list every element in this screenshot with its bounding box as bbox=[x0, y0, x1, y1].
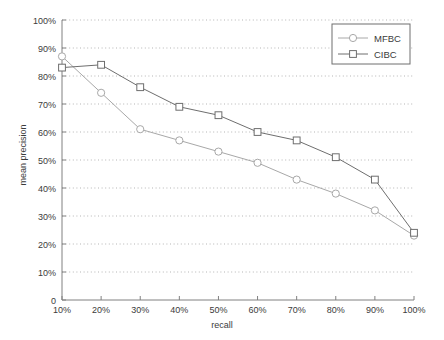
data-point-cibc-90 bbox=[371, 176, 378, 183]
y-tick-label-30: 30% bbox=[38, 212, 56, 222]
y-tick-label-80: 80% bbox=[38, 72, 56, 82]
legend-box bbox=[332, 24, 410, 64]
legend-marker-mfbc bbox=[349, 34, 356, 41]
y-tick-label-10: 10% bbox=[38, 268, 56, 278]
x-tick-label-90: 90% bbox=[366, 305, 384, 315]
series-line-cibc bbox=[62, 65, 414, 233]
data-point-cibc-40 bbox=[176, 103, 183, 110]
y-tick-label-0: 0 bbox=[51, 296, 56, 306]
x-tick-label-20: 20% bbox=[92, 305, 110, 315]
x-tick-label-80: 80% bbox=[327, 305, 345, 315]
series-cibc bbox=[59, 61, 418, 236]
data-point-mfbc-60 bbox=[254, 159, 261, 166]
legend-marker-cibc bbox=[350, 51, 357, 58]
x-axis-ticks: 10%20%30%40%50%60%70%80%90%100% bbox=[53, 296, 426, 315]
x-tick-label-40: 40% bbox=[170, 305, 188, 315]
y-tick-label-60: 60% bbox=[38, 128, 56, 138]
data-point-cibc-30 bbox=[137, 84, 144, 91]
series-mfbc bbox=[58, 53, 417, 239]
y-tick-label-20: 20% bbox=[38, 240, 56, 250]
y-tick-label-90: 90% bbox=[38, 44, 56, 54]
data-point-cibc-80 bbox=[332, 154, 339, 161]
data-point-mfbc-10 bbox=[58, 53, 65, 60]
data-point-cibc-10 bbox=[59, 64, 66, 71]
data-point-mfbc-50 bbox=[215, 148, 222, 155]
data-point-cibc-20 bbox=[98, 61, 105, 68]
x-tick-label-60: 60% bbox=[249, 305, 267, 315]
data-point-cibc-50 bbox=[215, 112, 222, 119]
x-axis-label: recall bbox=[192, 320, 252, 330]
x-tick-label-30: 30% bbox=[131, 305, 149, 315]
x-tick-label-70: 70% bbox=[288, 305, 306, 315]
data-point-mfbc-80 bbox=[332, 190, 339, 197]
series-line-mfbc bbox=[62, 56, 414, 235]
y-tick-label-50: 50% bbox=[38, 156, 56, 166]
data-point-mfbc-20 bbox=[98, 89, 105, 96]
x-tick-label-10: 10% bbox=[53, 305, 71, 315]
data-point-mfbc-30 bbox=[137, 126, 144, 133]
data-point-mfbc-90 bbox=[371, 207, 378, 214]
legend-label-cibc: CIBC bbox=[374, 49, 397, 60]
y-tick-label-70: 70% bbox=[38, 100, 56, 110]
x-tick-label-50: 50% bbox=[209, 305, 227, 315]
y-axis-label: mean precision bbox=[18, 110, 28, 200]
data-point-mfbc-40 bbox=[176, 137, 183, 144]
data-point-cibc-60 bbox=[254, 129, 261, 136]
data-point-cibc-100 bbox=[411, 229, 418, 236]
data-series-layer bbox=[58, 53, 417, 239]
precision-recall-chart: 010%20%30%40%50%60%70%80%90%100% 10%20%3… bbox=[0, 0, 444, 340]
chart-legend: MFBCCIBC bbox=[332, 24, 410, 64]
y-tick-label-100: 100% bbox=[33, 16, 56, 26]
legend-label-mfbc: MFBC bbox=[374, 33, 401, 44]
y-tick-label-40: 40% bbox=[38, 184, 56, 194]
data-point-cibc-70 bbox=[293, 137, 300, 144]
data-point-mfbc-70 bbox=[293, 176, 300, 183]
plot-canvas: 010%20%30%40%50%60%70%80%90%100% 10%20%3… bbox=[0, 0, 444, 340]
x-tick-label-100: 100% bbox=[402, 305, 425, 315]
